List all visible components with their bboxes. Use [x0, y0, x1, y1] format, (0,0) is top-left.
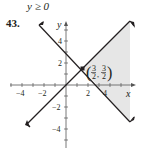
- y-tick-label: −2: [52, 103, 61, 112]
- svg-text:(: (: [86, 64, 91, 82]
- x-tick-label: −4: [16, 89, 25, 98]
- y-tick-label: −4: [52, 125, 61, 134]
- svg-text:2: 2: [102, 72, 106, 81]
- x-tick-label: 2: [86, 89, 90, 98]
- intersection-point-marker: [81, 67, 85, 71]
- x-axis-label: x: [125, 88, 131, 99]
- x-axis-arrow-icon: [131, 83, 136, 87]
- y-tick-label: 4: [58, 37, 62, 46]
- graph: −4 −2 2 4 4 2 −2 −4 y x ( 3 2 , 3 2 ): [0, 0, 143, 150]
- svg-text:2: 2: [92, 72, 96, 81]
- x-tick-label: −2: [38, 89, 47, 98]
- y-axis-arrow-icon: [64, 21, 68, 26]
- svg-text:): ): [107, 64, 112, 82]
- svg-text:,: ,: [97, 70, 99, 79]
- y-tick-label: 2: [58, 59, 62, 68]
- y-axis-label: y: [56, 19, 62, 30]
